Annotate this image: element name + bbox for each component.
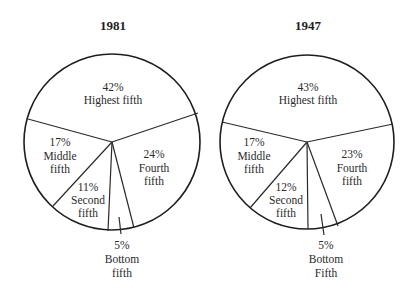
- svg-text:Middle: Middle: [43, 150, 76, 162]
- svg-text:fifth: fifth: [78, 207, 98, 219]
- svg-text:Highest fifth: Highest fifth: [279, 94, 338, 107]
- svg-text:Fifth: Fifth: [315, 267, 338, 279]
- chart-title-1981: 1981: [100, 18, 126, 33]
- svg-text:43%: 43%: [297, 81, 319, 93]
- svg-text:12%: 12%: [275, 181, 297, 193]
- svg-text:23%: 23%: [341, 148, 363, 160]
- pie-chart-1981: 1981 42% Highest fifth 17% Middle fifth …: [24, 18, 200, 279]
- svg-text:Fourth: Fourth: [139, 162, 170, 174]
- svg-text:fifth: fifth: [112, 267, 132, 279]
- svg-text:24%: 24%: [143, 148, 165, 160]
- svg-text:fifth: fifth: [50, 163, 70, 175]
- slice-label-bottom: 5% Bottom fifth: [105, 239, 140, 279]
- svg-text:fifth: fifth: [342, 175, 362, 187]
- svg-text:5%: 5%: [318, 239, 334, 251]
- svg-text:fifth: fifth: [276, 207, 296, 219]
- svg-text:Highest fifth: Highest fifth: [84, 94, 143, 107]
- svg-text:5%: 5%: [114, 239, 130, 251]
- pie-chart-1947: 1947 43% Highest fifth 17% Middle fifth …: [220, 18, 394, 279]
- svg-text:17%: 17%: [243, 136, 265, 148]
- svg-text:17%: 17%: [49, 136, 71, 148]
- income-distribution-charts: 1981 42% Highest fifth 17% Middle fifth …: [0, 0, 415, 296]
- svg-text:Middle: Middle: [237, 150, 270, 162]
- svg-text:Second: Second: [269, 194, 303, 206]
- svg-text:fifth: fifth: [244, 163, 264, 175]
- svg-text:42%: 42%: [102, 81, 124, 93]
- svg-text:Second: Second: [71, 194, 105, 206]
- svg-text:fifth: fifth: [144, 175, 164, 187]
- slice-label-bottom: 5% Bottom Fifth: [309, 239, 344, 279]
- svg-text:11%: 11%: [78, 181, 99, 193]
- chart-title-1947: 1947: [295, 18, 322, 33]
- svg-text:Bottom: Bottom: [309, 253, 344, 265]
- svg-text:Bottom: Bottom: [105, 253, 140, 265]
- svg-text:Fourth: Fourth: [337, 162, 368, 174]
